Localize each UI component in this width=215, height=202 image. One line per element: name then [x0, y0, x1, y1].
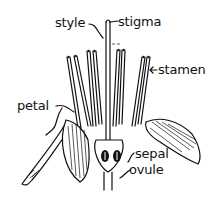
style-stalk: [106, 22, 110, 146]
stamens: [67, 49, 150, 128]
label-ovule: ovule: [129, 163, 164, 177]
pedicel: [104, 172, 112, 190]
label-stigma: stigma: [118, 15, 161, 29]
label-petal: petal: [17, 99, 49, 113]
sepal-leader: [128, 153, 134, 162]
stamen-leader: [150, 67, 157, 73]
flower-diagram: style stigma stamen petal sepal ovule: [0, 0, 215, 202]
style-leader: [89, 24, 103, 38]
stigma-tip: [106, 20, 110, 22]
label-stamen: stamen: [158, 63, 206, 77]
left-petal: [22, 126, 66, 185]
stigma-leader: [110, 21, 118, 22]
label-style: style: [55, 16, 85, 30]
label-sepal: sepal: [135, 147, 169, 161]
